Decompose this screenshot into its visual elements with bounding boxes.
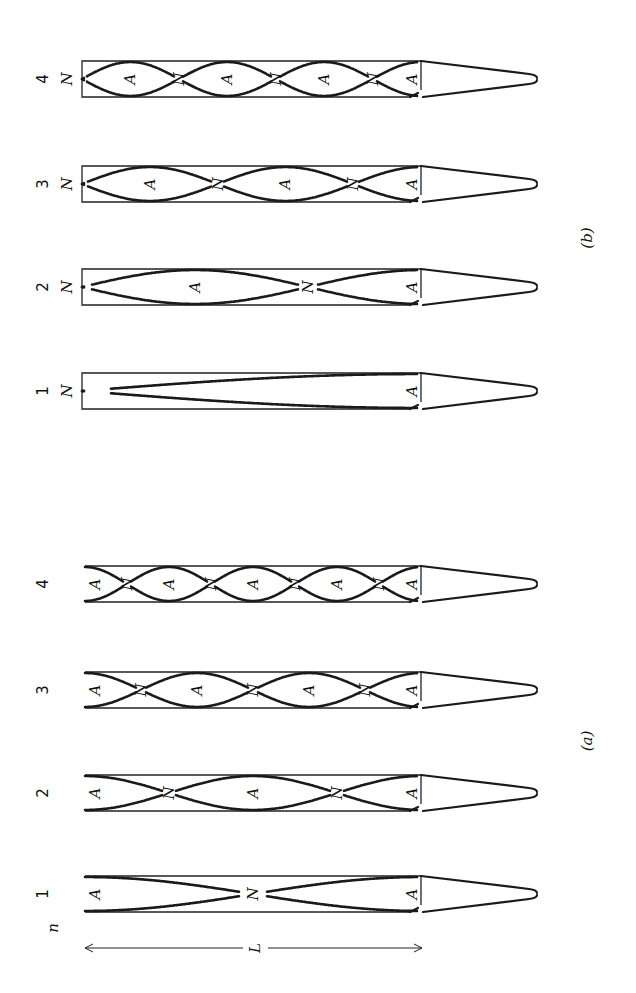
mouthpiece bbox=[423, 185, 537, 202]
antinode-label: A bbox=[403, 888, 421, 901]
antinode-label: A bbox=[403, 178, 421, 191]
harmonic-number: 2 bbox=[34, 788, 52, 798]
node-label: N bbox=[202, 577, 220, 592]
node-label: N bbox=[58, 280, 76, 295]
harmonic-number: 2 bbox=[34, 282, 52, 292]
antinode-label: A bbox=[86, 684, 104, 697]
wave-envelope bbox=[85, 877, 239, 892]
harmonic-number: 4 bbox=[34, 579, 52, 589]
wave-envelope bbox=[267, 877, 417, 892]
antinode-label: A bbox=[403, 787, 421, 800]
pipe-a-n2: NNAAA2 bbox=[34, 775, 537, 811]
antinode-label: A bbox=[244, 787, 262, 800]
node-label: N bbox=[356, 683, 374, 698]
antinode-label: A bbox=[218, 73, 236, 86]
node-label: N bbox=[58, 72, 76, 87]
pipes-layer: NNNNAAAA4NNNAAA3NNAA2NA1NNNNAAAAA4NNNAAA… bbox=[34, 61, 537, 912]
node-label: N bbox=[370, 577, 388, 592]
antinode-label: A bbox=[121, 73, 139, 86]
wave-envelope bbox=[85, 896, 239, 911]
n-axis-label: n bbox=[44, 923, 62, 933]
antinode-label: A bbox=[276, 178, 294, 191]
mouthpiece bbox=[423, 895, 537, 912]
antinode-label: A bbox=[403, 385, 421, 398]
length-dimension-arrow: L bbox=[85, 943, 422, 954]
panel-b-caption: (b) bbox=[578, 227, 596, 248]
pipe-a-n1: NAA1 bbox=[34, 876, 537, 912]
antinode-label: A bbox=[86, 888, 104, 901]
node-label: N bbox=[58, 384, 76, 399]
antinode-label: A bbox=[315, 73, 333, 86]
wave-envelope bbox=[82, 287, 84, 288]
node-label: N bbox=[267, 72, 285, 87]
node-label: N bbox=[170, 72, 188, 87]
node-label: N bbox=[244, 683, 262, 698]
mouthpiece bbox=[421, 166, 537, 183]
antinode-label: A bbox=[86, 787, 104, 800]
pipe-b-n3: NNNAAA3 bbox=[34, 166, 537, 202]
harmonic-number: 1 bbox=[34, 386, 52, 396]
mouthpiece bbox=[421, 61, 537, 78]
mouthpiece bbox=[423, 392, 537, 409]
node-label: N bbox=[344, 177, 362, 192]
node-label: N bbox=[286, 577, 304, 592]
antinode-label: A bbox=[403, 73, 421, 86]
pipe-a-n4: NNNNAAAAA4 bbox=[34, 566, 537, 602]
antinode-label: A bbox=[328, 578, 346, 591]
mouthpiece bbox=[421, 269, 537, 286]
mouthpiece bbox=[423, 585, 537, 602]
mouthpiece bbox=[421, 775, 537, 792]
pipe-b-n2: NNAA2 bbox=[34, 269, 537, 305]
mouthpiece bbox=[421, 672, 537, 689]
node-label: N bbox=[244, 887, 262, 902]
node-label: N bbox=[209, 177, 227, 192]
node-label: N bbox=[160, 786, 178, 801]
wave-envelope bbox=[267, 896, 417, 911]
node-label: N bbox=[118, 577, 136, 592]
mouthpiece bbox=[423, 288, 537, 305]
antinode-label: A bbox=[186, 281, 204, 294]
mouthpiece bbox=[421, 373, 537, 390]
antinode-label: A bbox=[403, 684, 421, 697]
pipe-a-n3: NNNAAAA3 bbox=[34, 672, 537, 708]
antinode-label: A bbox=[141, 178, 159, 191]
node-label: N bbox=[328, 786, 346, 801]
pipe-b-n1: NA1 bbox=[34, 373, 537, 409]
panel-a-caption: (a) bbox=[578, 731, 596, 752]
antinode-label: A bbox=[188, 684, 206, 697]
node-label: N bbox=[132, 683, 150, 698]
antinode-label: A bbox=[403, 578, 421, 591]
harmonic-number: 1 bbox=[34, 889, 52, 899]
mouthpiece bbox=[421, 876, 537, 893]
antinode-label: A bbox=[244, 578, 262, 591]
mouthpiece bbox=[423, 794, 537, 811]
mouthpiece bbox=[421, 566, 537, 583]
antinode-label: A bbox=[300, 684, 318, 697]
node-label: N bbox=[58, 177, 76, 192]
harmonic-number: 4 bbox=[34, 74, 52, 84]
antinode-label: A bbox=[160, 578, 178, 591]
node-label: N bbox=[299, 280, 317, 295]
node-label: N bbox=[364, 72, 382, 87]
wave-envelope bbox=[82, 79, 84, 80]
length-label: L bbox=[246, 943, 264, 954]
wave-envelope bbox=[111, 374, 417, 389]
standing-waves-diagram: NNNNAAAA4NNNAAA3NNAA2NA1NNNNAAAAA4NNNAAA… bbox=[0, 0, 636, 993]
mouthpiece bbox=[423, 80, 537, 97]
harmonic-number: 3 bbox=[34, 685, 52, 695]
antinode-label: A bbox=[86, 578, 104, 591]
antinode-label: A bbox=[403, 281, 421, 294]
wave-envelope bbox=[82, 184, 84, 185]
mouthpiece bbox=[423, 691, 537, 708]
pipe-b-n4: NNNNAAAA4 bbox=[34, 61, 537, 97]
wave-envelope bbox=[111, 393, 417, 408]
harmonic-number: 3 bbox=[34, 179, 52, 189]
